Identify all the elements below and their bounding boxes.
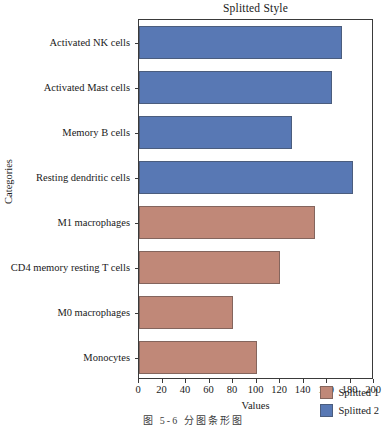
bar <box>139 161 353 194</box>
bar-row <box>139 290 372 335</box>
figure-container: Splitted Style Categories Activated NK c… <box>0 0 387 427</box>
bars-layer <box>139 20 372 378</box>
bar-row <box>139 65 372 110</box>
x-axis-tick <box>232 379 233 383</box>
x-axis-tick-label: 140 <box>295 384 311 395</box>
x-axis-tick <box>185 379 186 383</box>
x-axis-tick <box>303 379 304 383</box>
x-axis-tick-label: 100 <box>248 384 264 395</box>
y-axis-tick-label: Activated NK cells <box>50 36 130 47</box>
bar <box>139 71 332 104</box>
y-axis-tick-label: Memory B cells <box>62 126 130 137</box>
y-axis-tick-labels: Activated NK cellsActivated Mast cellsMe… <box>0 19 134 379</box>
bar-row <box>139 110 372 155</box>
plot-area <box>138 19 373 379</box>
bar <box>139 206 315 239</box>
x-axis-tick <box>326 379 327 383</box>
legend-item[interactable]: Splitted 1 <box>320 386 379 399</box>
bar-row <box>139 245 372 290</box>
x-axis-tick-label: 0 <box>135 384 140 395</box>
bar <box>139 116 292 149</box>
legend-swatch <box>320 386 333 399</box>
figure-caption: 图 5-6 分图条形图 <box>0 414 387 427</box>
x-axis-tick <box>138 379 139 383</box>
bar <box>139 341 257 374</box>
x-axis-tick-label: 120 <box>271 384 287 395</box>
x-axis-tick-label: 80 <box>227 384 238 395</box>
x-axis-tick <box>350 379 351 383</box>
bar-row <box>139 20 372 65</box>
y-axis-tick-label: Monocytes <box>83 351 130 362</box>
y-axis-tick-label: CD4 memory resting T cells <box>11 261 130 272</box>
x-axis-tick <box>373 379 374 383</box>
bar <box>139 251 280 284</box>
bar <box>139 26 342 59</box>
bar-row <box>139 200 372 245</box>
bar-row <box>139 335 372 380</box>
x-axis-tick <box>162 379 163 383</box>
bar-row <box>139 155 372 200</box>
chart-title: Splitted Style <box>138 2 373 14</box>
y-axis-tick-label: Resting dendritic cells <box>36 171 130 182</box>
legend: Splitted 1Splitted 2 <box>320 386 379 417</box>
x-axis-tick-label: 40 <box>180 384 191 395</box>
legend-label: Splitted 1 <box>338 387 379 398</box>
x-axis-tick <box>279 379 280 383</box>
x-axis-tick <box>256 379 257 383</box>
y-axis-tick-label: M0 macrophages <box>57 306 130 317</box>
y-axis-tick-label: Activated Mast cells <box>44 81 130 92</box>
y-axis-tick-label: M1 macrophages <box>57 216 130 227</box>
x-axis-tick-label: 60 <box>203 384 214 395</box>
x-axis-tick <box>209 379 210 383</box>
x-axis-tick-label: 20 <box>156 384 167 395</box>
bar <box>139 296 233 329</box>
